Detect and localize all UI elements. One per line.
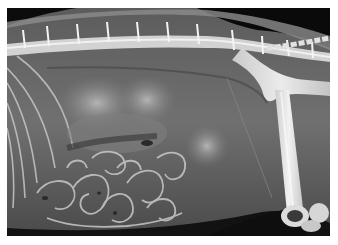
radiograph-svg bbox=[7, 8, 330, 236]
radiograph-image bbox=[7, 8, 330, 236]
